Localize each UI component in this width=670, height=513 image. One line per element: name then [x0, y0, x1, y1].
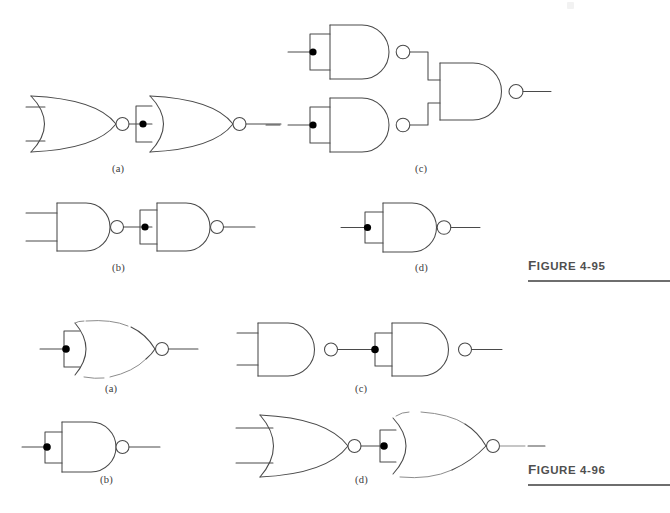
caption-word-initial: F — [528, 258, 537, 273]
fig495-part-d — [341, 203, 480, 252]
part-label-496c: (c) — [355, 383, 367, 394]
part-label-495a: (a) — [112, 163, 124, 174]
nand-gate-output — [440, 63, 551, 120]
figure-rule-4-96 — [528, 484, 670, 486]
figure-caption-4-95: FIGURE 4-95 — [528, 258, 606, 273]
inversion-bubble — [348, 440, 361, 453]
inversion-bubble — [396, 118, 410, 132]
junction-dot — [141, 223, 148, 230]
fig495-part-b — [26, 203, 255, 251]
interconnect-c — [410, 52, 440, 125]
caption-word-rest: IGURE — [537, 260, 576, 272]
inversion-bubble — [437, 221, 451, 235]
inversion-bubble — [116, 441, 129, 454]
figure-page: .ln { stroke:#4a4a4a; stroke-width:1.05;… — [0, 0, 670, 513]
caption-number: 4-95 — [580, 260, 605, 272]
fig496-part-c — [237, 323, 502, 376]
nand-gate-bottom — [266, 98, 410, 152]
inversion-bubble — [396, 45, 410, 59]
logic-diagram-canvas: .ln { stroke:#4a4a4a; stroke-width:1.05;… — [0, 0, 670, 513]
junction-dot — [43, 443, 51, 451]
interconnect-a — [129, 106, 152, 142]
junction-dot — [309, 121, 316, 128]
fig496-part-b — [22, 422, 160, 472]
inversion-bubble — [325, 343, 338, 356]
inversion-bubble — [459, 343, 472, 356]
fig495-part-c — [266, 25, 551, 152]
interconnect-c2 — [338, 333, 392, 366]
inversion-bubble — [111, 221, 124, 234]
part-label-495d: (d) — [415, 262, 428, 273]
part-label-496b: (b) — [100, 474, 113, 485]
nor-gate-1 — [236, 415, 361, 477]
junction-dot — [309, 48, 316, 55]
junction-dot — [380, 442, 388, 450]
interconnect-d — [361, 430, 396, 462]
nand-gate-2 — [157, 203, 255, 251]
junction-dot — [371, 346, 379, 354]
caption-word-initial: F — [528, 462, 537, 477]
part-label-495b: (b) — [112, 262, 125, 273]
inversion-bubble — [116, 118, 129, 131]
figure-caption-4-96: FIGURE 4-96 — [528, 462, 606, 477]
inversion-bubble — [233, 118, 246, 131]
junction-dot — [139, 120, 146, 127]
fig496-part-a — [40, 321, 198, 379]
interconnect-b — [124, 210, 158, 244]
fig496-part-d — [236, 412, 545, 478]
nor-gate-2 — [393, 412, 545, 478]
inversion-bubble — [211, 221, 224, 234]
junction-dot — [62, 345, 70, 353]
nand-gate-2 — [392, 323, 502, 376]
caption-word-rest: IGURE — [537, 464, 576, 476]
inversion-bubble — [487, 440, 500, 453]
figure-rule-4-95 — [528, 280, 670, 282]
inversion-bubble — [509, 85, 523, 99]
nor-gate-1 — [26, 96, 129, 152]
part-label-496d: (d) — [355, 474, 368, 485]
inversion-bubble — [156, 343, 169, 356]
junction-dot — [364, 224, 371, 231]
nand-gate-top — [288, 25, 410, 79]
fig495-part-a — [26, 96, 281, 152]
part-label-496a: (a) — [105, 383, 117, 394]
part-label-495c: (c) — [415, 163, 427, 174]
nor-gate-2 — [150, 96, 281, 152]
nand-gate-1 — [237, 323, 338, 376]
caption-number: 4-96 — [580, 464, 605, 476]
nand-gate-1 — [26, 203, 124, 251]
